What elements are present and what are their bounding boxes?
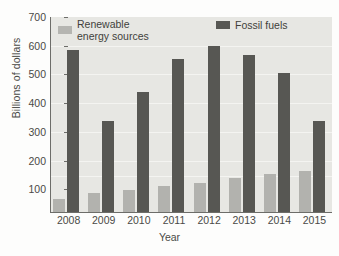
bar-group (192, 17, 227, 212)
x-axis-title: Year (0, 231, 339, 243)
y-tick-label-700: 700 (18, 12, 46, 22)
bar-fossil-2012 (208, 46, 220, 212)
legend-item-renewable: Renewableenergy sources (58, 18, 149, 42)
bar-renewable-2011 (158, 186, 170, 212)
bar-group (86, 17, 121, 212)
bar-renewable-2015 (299, 171, 311, 212)
x-tick-label-2014: 2014 (259, 214, 299, 226)
x-axis: 20082009201020112012201320142015 (51, 214, 332, 230)
bar-group (156, 17, 191, 212)
y-tick-label-400: 400 (18, 98, 46, 108)
legend-label-renewable-line2: energy sources (77, 30, 149, 42)
legend-swatch-renewable-icon (58, 26, 72, 34)
legend-item-fossil: Fossil fuels (216, 18, 288, 31)
y-tick-label-600: 600 (18, 41, 46, 51)
bar-group (51, 17, 86, 212)
bar-group (297, 17, 332, 212)
bar-renewable-2014 (264, 174, 276, 212)
bar-groups (51, 17, 332, 212)
bar-renewable-2008 (53, 199, 65, 212)
y-tick-label-300: 300 (18, 127, 46, 137)
x-tick-label-2011: 2011 (154, 214, 194, 226)
bar-group (121, 17, 156, 212)
bar-chart: Billions of dollars 700 600 500 400 300 … (0, 0, 339, 256)
x-tick-label-2012: 2012 (189, 214, 229, 226)
y-tick-label-500: 500 (18, 69, 46, 79)
bar-fossil-2008 (67, 50, 79, 212)
legend-label-renewable-line1: Renewable (77, 18, 130, 30)
y-axis: 700 600 500 400 300 200 100 (18, 10, 46, 210)
bar-group (227, 17, 262, 212)
bar-fossil-2015 (313, 121, 325, 212)
bar-fossil-2010 (137, 92, 149, 212)
bar-group (262, 17, 297, 212)
y-tick-label-100: 100 (18, 184, 46, 194)
bar-renewable-2009 (88, 193, 100, 212)
legend-swatch-fossil-icon (216, 21, 230, 29)
x-tick-label-2015: 2015 (294, 214, 334, 226)
bar-fossil-2009 (102, 121, 114, 212)
x-tick-label-2010: 2010 (119, 214, 159, 226)
legend-label-fossil: Fossil fuels (235, 19, 288, 31)
scan-bleed-artifact (6, 243, 306, 254)
x-tick-label-2008: 2008 (49, 214, 89, 226)
bar-renewable-2012 (194, 183, 206, 212)
x-tick-label-2013: 2013 (224, 214, 264, 226)
y-tick-label-200: 200 (18, 156, 46, 166)
bar-fossil-2014 (278, 73, 290, 212)
bar-renewable-2013 (229, 178, 241, 212)
bar-fossil-2013 (243, 55, 255, 212)
bar-fossil-2011 (172, 59, 184, 212)
x-tick-label-2009: 2009 (84, 214, 124, 226)
bar-renewable-2010 (123, 190, 135, 212)
